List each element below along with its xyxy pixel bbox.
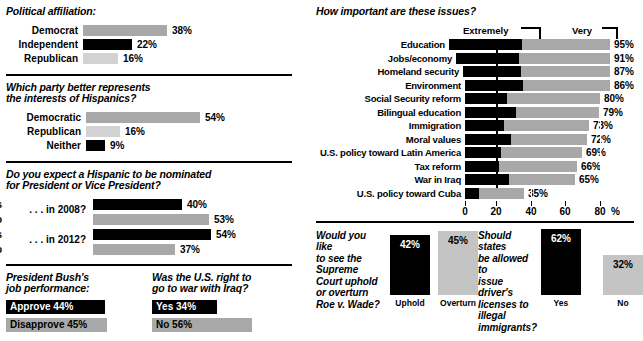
- divider: [6, 161, 292, 163]
- bar-fill: 42%: [390, 235, 430, 295]
- issue-label: Tax reform: [316, 161, 465, 172]
- bar-label: No: [0, 244, 7, 255]
- axis-tick-label-40: 40: [525, 206, 536, 217]
- issue-track: [465, 134, 587, 145]
- axis-tick-label-20: 20: [490, 206, 501, 217]
- panel-title-bush-line2: job performance:: [6, 283, 146, 295]
- issue-total: 87%: [610, 66, 634, 77]
- bar-value: 54%: [211, 229, 236, 240]
- issue-total: 69%: [582, 147, 606, 158]
- panel-political-affiliation: Political affiliation: Democrat 38% Inde…: [6, 6, 306, 66]
- affiliation-bars: Democrat 38% Independent 22% Republican …: [6, 24, 306, 66]
- panel-title-licenses: Should states be allowed to issue driver…: [478, 230, 537, 334]
- bar-label: Democratic: [6, 112, 86, 123]
- bar-row: Republican 16%: [6, 125, 306, 139]
- bar-inline-label: Approve 44%: [6, 301, 73, 312]
- bar-label: Independent: [6, 39, 83, 50]
- bar-label: Democrat: [6, 25, 83, 36]
- callout-leader-extremely-h: [521, 27, 541, 29]
- bar-row: No 37%: [93, 242, 306, 257]
- bar-fill: 32%: [603, 255, 643, 295]
- bar-label: Neither: [6, 140, 86, 151]
- segment-very: [516, 107, 599, 118]
- segment-extremely: [465, 188, 479, 199]
- issues-x-axis: 0 20 40 60 80 %: [465, 201, 634, 219]
- bar-fill: [86, 140, 105, 151]
- bar-fill: [93, 199, 182, 210]
- axis-unit-label: %: [611, 206, 620, 217]
- segment-very: [507, 93, 600, 104]
- title-line: be allowed to: [478, 253, 537, 276]
- bar-label: Republican: [6, 53, 83, 64]
- bar-value: 53%: [209, 214, 234, 225]
- bar-row: Independent 22%: [6, 38, 306, 52]
- bar-label: Yes: [0, 199, 7, 210]
- issue-row: Environment 86%: [316, 79, 634, 91]
- bar-inline-label: Disapprove 45%: [6, 319, 87, 330]
- issue-total: 73%: [589, 120, 613, 131]
- issue-row: Homeland security 87%: [316, 66, 634, 78]
- bar-label: No: [0, 214, 7, 225]
- issue-row: War in Iraq 65%: [316, 174, 634, 186]
- bar-caption: Yes: [554, 298, 569, 308]
- segment-very: [504, 120, 589, 131]
- issue-total: 95%: [610, 39, 634, 50]
- divider: [6, 264, 292, 266]
- bar-value: 62%: [541, 233, 581, 244]
- title-line: Court uphold: [316, 276, 384, 288]
- segment-very: [519, 53, 610, 64]
- issue-total: 86%: [610, 80, 634, 91]
- bar-value: 16%: [118, 53, 143, 64]
- roe-bars: 42% Uphold 45% Overturn: [390, 230, 478, 308]
- issue-track: [449, 39, 610, 50]
- left-column: Political affiliation: Democrat 38% Inde…: [6, 0, 306, 336]
- panel-title-roe: Would you like to see the Supreme Court …: [316, 230, 384, 334]
- bar-value: 32%: [603, 259, 643, 270]
- issue-row: Social Security reform 80%: [316, 93, 634, 105]
- bar-row: Democratic 54%: [6, 111, 306, 125]
- bar-fill: [83, 39, 132, 50]
- bar-row: Democrat 38%: [6, 24, 306, 38]
- issue-label: Homeland security: [316, 66, 463, 77]
- title-line: Roe v. Wade?: [316, 299, 384, 311]
- segment-extremely: [465, 107, 516, 118]
- issue-label: Moral values: [316, 134, 465, 145]
- issue-track: [465, 107, 599, 118]
- bar-caption: No: [617, 298, 628, 308]
- panel-roe-v-wade: Would you like to see the Supreme Court …: [316, 230, 478, 334]
- bar-fill: [83, 53, 118, 64]
- divider: [316, 221, 634, 223]
- issue-row: Education 95%: [316, 39, 634, 51]
- segment-extremely: [456, 53, 519, 64]
- title-line: issue driver's: [478, 276, 537, 299]
- issue-track: [465, 80, 610, 91]
- axis-tick-label-0: 0: [462, 206, 468, 217]
- issue-total: 79%: [599, 107, 623, 118]
- issue-total: 65%: [575, 174, 599, 185]
- issue-label: Jobs/economy: [316, 53, 456, 64]
- issue-row: U.S. policy toward Latin America 69%: [316, 147, 634, 159]
- issue-total: 66%: [577, 161, 601, 172]
- callout-leader-extremely-v: [539, 28, 541, 39]
- roe-bar-overturn: 45% Overturn: [438, 231, 478, 308]
- roe-bar-uphold: 42% Uphold: [390, 235, 430, 308]
- segment-extremely: [465, 161, 499, 172]
- title-line: immigrants?: [478, 322, 537, 334]
- panel-bush-iraq: President Bush's job performance: Approv…: [6, 272, 306, 336]
- segment-very: [479, 188, 524, 199]
- party-bars: Democratic 54% Republican 16% Neither 9%: [6, 111, 306, 153]
- panel-title-issues: How important are these issues?: [316, 6, 634, 18]
- bar-row: No 53%: [93, 212, 306, 227]
- segment-very: [521, 66, 610, 77]
- title-line: Would you like: [316, 230, 384, 253]
- segment-very: [501, 147, 582, 158]
- callout-label-very: Very: [572, 25, 592, 36]
- bar-label: Yes: [0, 229, 7, 240]
- bar-inline-label: Yes 34%: [152, 301, 196, 312]
- group-label-2008: . . . in 2008?: [6, 204, 86, 215]
- issues-callouts: Extremely Very: [465, 23, 634, 39]
- bar-fill: [83, 25, 167, 36]
- panel-title-nomination-line2: for President or Vice President?: [6, 180, 306, 192]
- bar-fill: [86, 126, 120, 137]
